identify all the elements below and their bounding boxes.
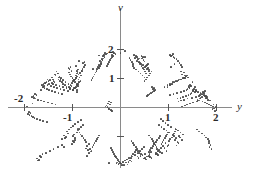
- scatter-point: [176, 145, 178, 147]
- scatter-point: [140, 73, 142, 75]
- scatter-point: [98, 135, 100, 137]
- scatter-point: [190, 85, 192, 87]
- scatter-point: [72, 140, 74, 142]
- scatter-point: [168, 144, 170, 146]
- scatter-point: [65, 81, 67, 83]
- scatter-point: [119, 162, 121, 164]
- x-tick-neg1: [72, 104, 73, 111]
- scatter-point: [155, 152, 157, 154]
- scatter-point: [54, 91, 56, 93]
- scatter-point: [69, 88, 71, 90]
- scatter-point: [128, 161, 130, 163]
- scatter-point: [214, 110, 216, 112]
- scatter-point: [117, 159, 119, 161]
- scatter-point: [144, 153, 146, 155]
- scatter-point: [176, 92, 178, 94]
- scatter-point: [172, 135, 174, 137]
- scatter-point: [142, 75, 144, 77]
- scatter-point: [151, 138, 153, 140]
- x-tick-label-pos2: 2: [213, 112, 219, 123]
- scatter-point: [79, 77, 81, 79]
- scatter-point: [96, 138, 98, 140]
- scatter-point: [216, 109, 218, 111]
- y-tick-pos2: [117, 49, 124, 50]
- scatter-point: [133, 144, 135, 146]
- scatter-point: [128, 157, 130, 159]
- scatter-point: [161, 152, 163, 154]
- scatter-point: [192, 81, 194, 83]
- scatter-point: [132, 153, 134, 155]
- scatter-point: [207, 99, 209, 101]
- scatter-point: [77, 69, 79, 71]
- scatter-point: [180, 100, 182, 102]
- scatter-point: [169, 84, 171, 86]
- scatter-point: [180, 132, 182, 134]
- scatter-point: [105, 54, 107, 56]
- scatter-point: [77, 85, 79, 87]
- scatter-point: [61, 138, 63, 140]
- scatter-point: [89, 148, 91, 150]
- scatter-point: [159, 135, 161, 137]
- scatter-point: [80, 80, 82, 82]
- scatter-point: [94, 74, 96, 76]
- scatter-point: [95, 140, 97, 142]
- scatter-point: [201, 96, 203, 98]
- x-tick-label-neg2: -2: [14, 93, 23, 104]
- scatter-point: [88, 152, 90, 154]
- scatter-point: [153, 143, 155, 145]
- scatter-point: [191, 97, 193, 99]
- scatter-point: [145, 79, 147, 81]
- scatter-point: [189, 87, 191, 89]
- scatter-point: [141, 148, 143, 150]
- scatter-point: [131, 155, 133, 157]
- scatter-point: [40, 156, 42, 158]
- scatter-point: [43, 101, 45, 103]
- scatter-point: [155, 141, 157, 143]
- scatter-point: [160, 147, 162, 149]
- scatter-point: [211, 148, 213, 150]
- scatter-point: [42, 153, 44, 155]
- scatter-point: [80, 126, 82, 128]
- scatter-point: [199, 100, 201, 102]
- scatter-point: [181, 139, 183, 141]
- scatter-point: [48, 89, 50, 91]
- scatter-point: [57, 146, 59, 148]
- scatter-point: [122, 161, 124, 163]
- scatter-point: [85, 141, 87, 143]
- scatter-point: [208, 142, 210, 144]
- scatter-point: [67, 133, 69, 135]
- scatter-point: [182, 134, 184, 136]
- scatter-point: [194, 86, 196, 88]
- scatter-point: [55, 75, 57, 77]
- scatter-point: [115, 156, 117, 158]
- scatter-point: [49, 79, 51, 81]
- scatter-point: [46, 121, 48, 123]
- scatter-point: [135, 69, 137, 71]
- scatter-point: [166, 150, 168, 152]
- scatter-point: [162, 141, 164, 143]
- y-tick-pos1: [117, 78, 124, 79]
- scatter-point: [76, 89, 78, 91]
- scatter-point: [156, 153, 158, 155]
- scatter-point: [183, 72, 185, 74]
- scatter-point: [47, 84, 49, 86]
- scatter-point: [173, 93, 175, 95]
- scatter-point: [149, 156, 151, 158]
- scatter-point: [80, 75, 82, 77]
- scatter-point: [181, 74, 183, 76]
- scatter-point: [39, 155, 41, 157]
- scatter-point: [106, 65, 108, 67]
- scatter-point: [62, 79, 64, 81]
- scatter-point: [54, 81, 56, 83]
- scatter-point: [175, 137, 177, 139]
- scatter-point: [162, 120, 164, 122]
- scatter-point: [138, 152, 140, 154]
- scatter-point: [132, 142, 134, 144]
- scatter-point: [127, 164, 129, 166]
- scatter-point: [181, 106, 183, 108]
- scatter-point: [174, 139, 176, 141]
- scatter-point: [153, 90, 155, 92]
- scatter-point: [180, 91, 182, 93]
- scatter-point: [60, 88, 62, 90]
- scatter-point: [93, 144, 95, 146]
